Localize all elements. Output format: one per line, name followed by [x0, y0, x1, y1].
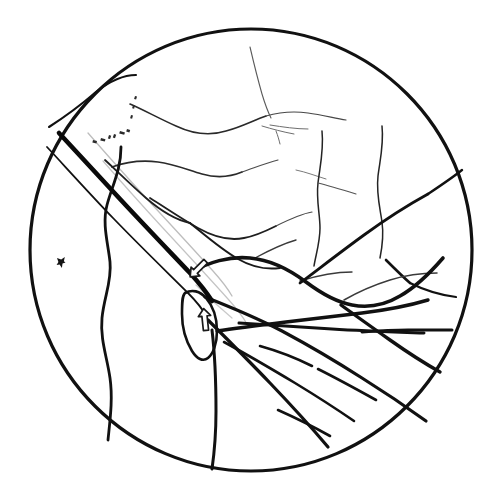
fundus-circle-border — [30, 29, 472, 471]
fundus-drawing-canvas — [0, 0, 504, 492]
fundus-figure-root — [0, 0, 504, 492]
